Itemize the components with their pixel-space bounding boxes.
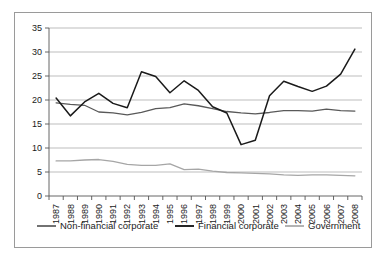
x-axis-tick-label: 1995 xyxy=(165,204,175,224)
line-chart: 05101520253035 1987198819891990199119921… xyxy=(15,13,371,247)
legend-label-non-financial-corporate: Non-financial corporate xyxy=(60,220,158,231)
legend-label-financial-corporate: Financial corporate xyxy=(198,220,279,231)
x-axis-tick-label: 2004 xyxy=(293,204,303,224)
x-axis-tick-label: 1996 xyxy=(179,204,189,224)
axes-group xyxy=(49,28,362,196)
y-axis-tick-label: 20 xyxy=(32,95,42,105)
gridlines-group xyxy=(49,28,362,172)
y-axis-tick-label: 10 xyxy=(32,143,42,153)
y-axis-tick-label: 25 xyxy=(32,71,42,81)
series-line-government xyxy=(56,160,355,176)
series-line-financial-corporate xyxy=(56,49,355,145)
tickmarks-group xyxy=(45,28,362,200)
x-axis-tick-label: 2003 xyxy=(279,204,289,224)
chart-legend: Non-financial corporateFinancial corpora… xyxy=(37,220,361,231)
y-axis-tick-label: 0 xyxy=(37,191,42,201)
y-axis-labels-group: 05101520253035 xyxy=(32,23,42,201)
chart-figure: 05101520253035 1987198819891990199119921… xyxy=(14,12,372,248)
series-group xyxy=(56,49,355,176)
y-axis-tick-label: 35 xyxy=(32,23,42,33)
series-line-non-financial-corporate xyxy=(56,103,355,115)
y-axis-tick-label: 30 xyxy=(32,47,42,57)
y-axis-tick-label: 15 xyxy=(32,119,42,129)
y-axis-tick-label: 5 xyxy=(37,167,42,177)
legend-label-government: Government xyxy=(308,220,361,231)
